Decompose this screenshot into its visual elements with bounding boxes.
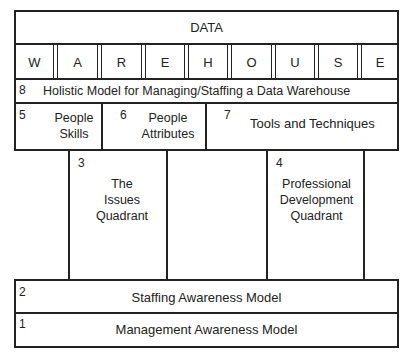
layer-7-number: 7 [224,108,231,122]
layer-7-label: Tools and Techniques [250,116,375,131]
layer-3-label-line2: Issues [70,192,174,208]
layer-8-number: 8 [19,83,26,97]
layer-4-label-line1: Professional [268,176,365,192]
layer-3-number: 3 [78,156,85,170]
layer-4-label-line3: Quadrant [268,208,365,224]
layer-3-label-line3: Quadrant [70,208,174,224]
layer-5-label-line2: Skills [46,127,102,142]
layer-5-label-line1: People [46,111,102,126]
layer-1-label: Management Awareness Model [14,322,399,337]
layer-4-label-line2: Development [268,192,365,208]
layer-8-label: Holistic Model for Managing/Staffing a D… [43,84,350,99]
letter-a: A [58,45,97,79]
layer-6-label-line2: Attributes [136,127,200,142]
layer-5-number: 5 [19,108,26,122]
data-title: DATA [14,20,399,35]
layer-3-label-line1: The [70,176,174,192]
layer-6-number: 6 [120,108,127,122]
letter-o: O [232,45,271,79]
layer-6-label-line1: People [136,111,200,126]
letter-u: U [276,45,314,79]
divider-2-1 [14,312,399,314]
letter-r: R [102,45,141,79]
letter-s: S [319,45,357,79]
divider-6-7 [205,102,207,150]
letter-e: E [146,45,184,79]
layer-2-label: Staffing Awareness Model [14,290,399,305]
letter-e2: E [362,45,398,79]
divider-5-6 [101,102,103,150]
letter-w: W [16,45,53,79]
layer-4-number: 4 [276,156,283,170]
letter-h: H [189,45,227,79]
